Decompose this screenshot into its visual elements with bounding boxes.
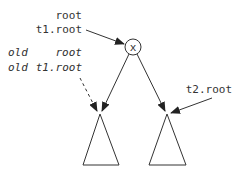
left-child-edge — [102, 54, 129, 111]
t1-root-arrow — [86, 30, 124, 44]
old-t1-root-label: t1.root — [36, 61, 83, 74]
root-label: root — [56, 9, 83, 22]
left-subtree-triangle — [83, 114, 119, 165]
right-subtree-triangle — [149, 114, 186, 165]
tree-node-x: x — [125, 39, 141, 55]
old-t1-root-prefix: old — [8, 61, 28, 74]
right-child-edge — [137, 54, 165, 111]
t2-root-arrow — [171, 98, 212, 113]
tree-diagram: root t1.root x old root old t1.root t2.r… — [0, 0, 242, 175]
node-label: x — [130, 41, 137, 54]
old-root-prefix: old — [8, 46, 28, 59]
old-root-label: root — [56, 46, 83, 59]
t2-root-label: t2.root — [186, 83, 232, 96]
t1-root-label: t1.root — [36, 23, 82, 36]
old-pointer-dashed-arrow — [80, 78, 97, 111]
